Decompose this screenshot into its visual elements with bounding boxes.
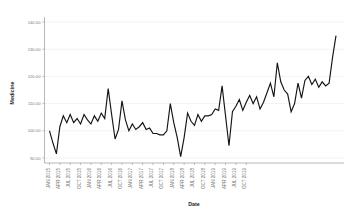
- x-tick-labels-group: JAN 2015APR 2015JUL 2015OCT 2015JAN 2016…: [46, 168, 248, 190]
- x-tick-label: OCT 2016: [118, 168, 123, 190]
- y-tick-label: 140.00: [28, 20, 41, 25]
- x-tick-label: APR 2019: [222, 168, 227, 189]
- data-series-line: [50, 36, 337, 157]
- y-tick-label: 90.00: [30, 156, 41, 161]
- x-tick-label: JAN 2018: [170, 168, 175, 189]
- x-tick-label: JAN 2017: [128, 168, 133, 189]
- x-tick-label: OCT 2017: [159, 168, 164, 190]
- x-tick-label: JUL 2017: [149, 168, 154, 188]
- x-tick-label: APR 2016: [97, 168, 102, 189]
- y-tick-label: 120.00: [28, 74, 41, 79]
- x-axis-title: Date: [188, 201, 200, 207]
- x-tick-label: OCT 2015: [77, 168, 82, 190]
- y-axis-title: Medicine: [9, 81, 15, 104]
- x-tick-label: APR 2015: [56, 168, 61, 189]
- x-tick-label: OCT 2018: [201, 168, 206, 190]
- line-chart-svg: 90.00100.00110.00120.00130.00140.00 JAN …: [0, 0, 361, 215]
- x-tick-label: JUL 2015: [66, 168, 71, 188]
- x-tick-label: JUL 2019: [232, 168, 237, 188]
- x-tick-label: OCT 2019: [242, 168, 247, 190]
- chart-figure: 90.00100.00110.00120.00130.00140.00 JAN …: [0, 0, 361, 215]
- x-tick-label: JUL 2018: [190, 168, 195, 188]
- x-tick-label: APR 2018: [180, 168, 185, 189]
- gridlines-group: [42, 22, 344, 158]
- x-tick-label: JAN 2015: [46, 168, 51, 189]
- y-tick-label: 110.00: [28, 101, 41, 106]
- y-tick-label: 100.00: [28, 128, 41, 133]
- x-tick-label: JAN 2019: [211, 168, 216, 189]
- y-tick-label: 130.00: [28, 47, 41, 52]
- x-tick-label: JAN 2016: [87, 168, 92, 189]
- x-tick-label: JUL 2016: [108, 168, 113, 188]
- x-tick-label: APR 2017: [139, 168, 144, 189]
- y-tick-labels-group: 90.00100.00110.00120.00130.00140.00: [28, 20, 41, 161]
